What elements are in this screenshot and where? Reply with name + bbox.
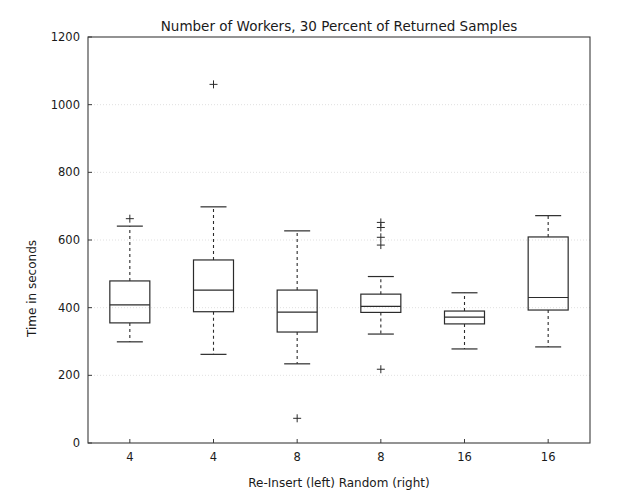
x-tick-label: 8: [294, 450, 301, 464]
y-tick-label: 0: [73, 436, 80, 450]
y-tick-label: 400: [58, 301, 80, 315]
x-tick-label: 16: [457, 450, 472, 464]
x-tick-label: 4: [126, 450, 133, 464]
y-tick-label: 800: [58, 165, 80, 179]
chart-title: Number of Workers, 30 Percent of Returne…: [161, 18, 517, 34]
x-tick-label: 8: [377, 450, 384, 464]
x-axis-label: Re-Insert (left) Random (right): [248, 476, 429, 490]
x-tick-label: 4: [210, 450, 217, 464]
y-tick-label: 200: [58, 368, 80, 382]
y-axis-label: Time in seconds: [25, 240, 39, 338]
boxplot-figure: Number of Workers, 30 Percent of Returne…: [0, 0, 622, 503]
boxplot-canvas: Number of Workers, 30 Percent of Returne…: [0, 0, 622, 503]
y-tick-label: 600: [58, 233, 80, 247]
y-tick-label: 1000: [51, 98, 80, 112]
y-tick-label: 1200: [51, 30, 80, 44]
x-tick-label: 16: [541, 450, 556, 464]
